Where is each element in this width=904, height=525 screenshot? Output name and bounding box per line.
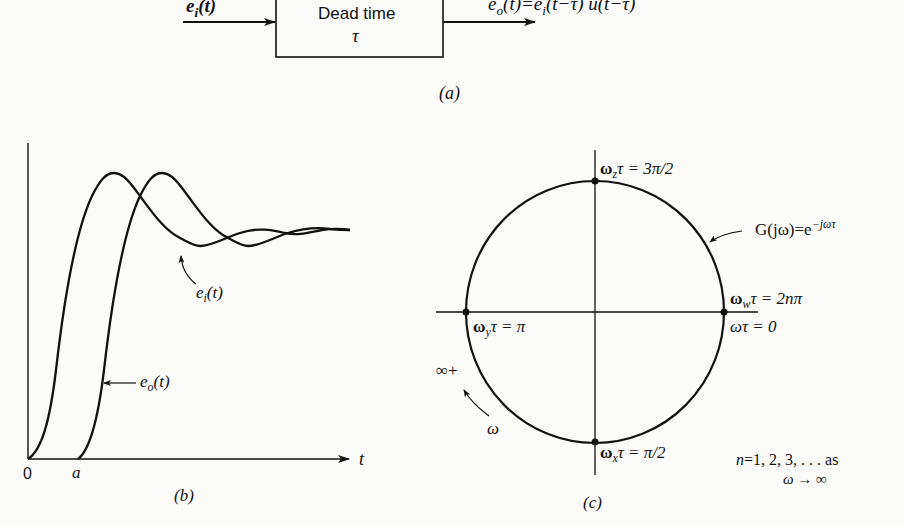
origin-label: 0 [23,466,32,482]
caption-b: (b) [174,487,194,504]
block-label: Dead time [318,5,395,22]
note-line1: n=1, 2, 3, . . . as [736,452,838,468]
point-right-upper-label: ωwτ = 2nπ [730,290,802,311]
point-top-label: ωzτ = 3π/2 [600,160,673,181]
x-axis-label: t [359,450,364,468]
delay-label: a [72,464,81,481]
point-right-lower-label: ωτ = 0 [730,318,777,335]
curve-output [78,173,350,459]
transfer-fn-pointer-arrow [710,231,742,242]
time-response-plot [28,143,350,459]
caption-c: (c) [583,494,602,511]
output-signal-label: eo(t)=ei(t−τ) u(t−τ) [488,0,635,17]
block-tau-label: τ [352,26,359,45]
caption-a: (a) [439,84,460,102]
curve-input [28,173,350,459]
transfer-fn-label: G(jω)=e−jωτ [755,219,836,238]
omega-direction-arrow [464,390,489,416]
point-right [721,309,728,316]
point-left-label: ωyτ = π [473,318,525,339]
point-bottom [592,439,599,446]
figure-graphics [0,0,904,525]
note-line2: ω → ∞ [783,472,827,487]
input-signal-label: ei(t) [186,0,216,19]
omega-direction-label: ω [487,420,499,437]
infinity-label: ∞+ [436,362,458,379]
polar-plot [436,150,758,475]
curve-input-label: ei(t) [196,284,223,305]
point-left [463,309,470,316]
point-bottom-label: ωxτ = π/2 [600,444,666,465]
ei-pointer-arrow [181,256,196,284]
point-top [592,178,599,185]
curve-output-label: eo(t) [140,373,170,394]
